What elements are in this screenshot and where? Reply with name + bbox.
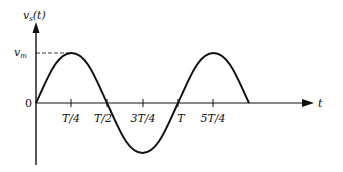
origin-label: 0 [25, 97, 32, 110]
vm-label: vm [14, 46, 27, 60]
tick-label-5t4: 5T/4 [200, 112, 225, 125]
tick-label-t2: T/2 [94, 112, 112, 125]
tick-label-3t4: 3T/4 [130, 112, 155, 125]
y-axis-arrow-icon [33, 22, 40, 33]
tick-label-t: T [177, 112, 186, 125]
tick-label-t4: T/4 [62, 112, 80, 125]
sine-wave-diagram: vs(t) vm 0 t T/4 T/2 3T/4 T 5T/4 [0, 0, 343, 172]
y-axis-label: vs(t) [23, 9, 46, 23]
t-axis-label: t [318, 97, 323, 110]
x-axis-arrow-icon [302, 99, 314, 107]
